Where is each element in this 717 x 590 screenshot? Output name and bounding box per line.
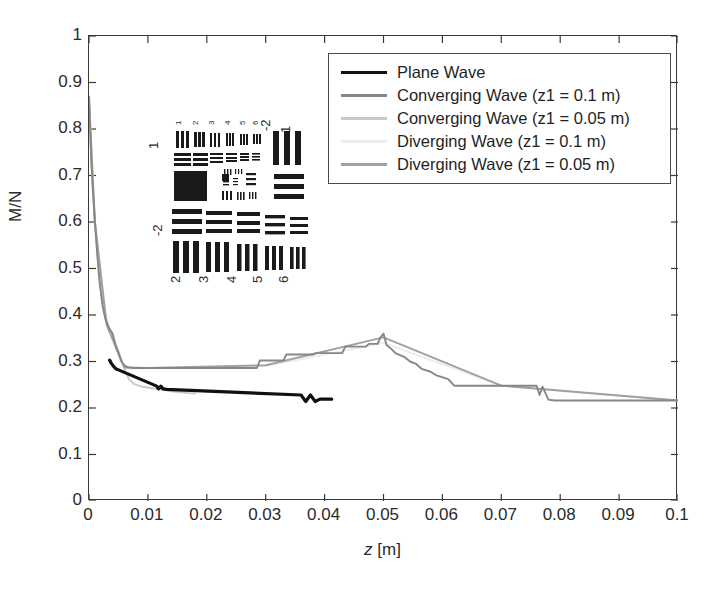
svg-text:1: 1 (174, 120, 183, 125)
legend-label: Diverging Wave (z1 = 0.1 m) (397, 132, 606, 151)
svg-text:2: 2 (191, 120, 200, 125)
legend-label: Converging Wave (z1 = 0.05 m) (397, 109, 630, 128)
x-axis-label: z [m] (88, 540, 677, 560)
svg-text:4: 4 (223, 120, 232, 125)
x-axis-label-variable: z (364, 540, 373, 559)
x-tick-label: 0.05 (366, 506, 399, 523)
svg-text:5: 5 (238, 120, 247, 125)
legend-label: Diverging Wave (z1 = 0.05 m) (397, 155, 615, 174)
y-tick-label: 0.4 (36, 305, 82, 322)
legend-color-swatch (341, 163, 387, 166)
svg-text:5: 5 (250, 276, 265, 283)
svg-text:-2: -2 (150, 224, 165, 236)
x-axis-ticks: 00.010.020.030.040.050.060.070.080.090.1 (88, 500, 677, 530)
x-tick-label: 0.06 (425, 506, 458, 523)
x-axis-label-unit: [m] (373, 540, 401, 559)
legend-label: Plane Wave (397, 63, 485, 82)
x-tick-label: 0.1 (665, 506, 689, 523)
legend: Plane WaveConverging Wave (z1 = 0.1 m)Co… (328, 53, 671, 184)
legend-color-swatch (341, 71, 387, 74)
legend-color-swatch (341, 94, 387, 97)
legend-label: Converging Wave (z1 = 0.1 m) (397, 86, 621, 105)
y-tick-label: 0.2 (36, 398, 82, 415)
y-axis-label: M/N (6, 191, 26, 222)
legend-color-swatch (341, 117, 387, 120)
svg-text:-2: -2 (258, 119, 273, 131)
svg-text:6: 6 (276, 276, 291, 283)
x-tick-label: 0 (83, 506, 92, 523)
legend-entry: Plane Wave (335, 61, 662, 84)
usaf-target-image: 1 2 3 4 5 6 1 -2 -2 1 2 (138, 101, 328, 291)
usaf-1951-resolution-target-inset: 1 2 3 4 5 6 1 -2 -2 1 2 (138, 101, 328, 291)
svg-text:1: 1 (146, 142, 161, 149)
chart-figure: M/N 10.90.80.70.60.50.40.30.20.10 1 2 3 … (0, 0, 717, 590)
legend-entry: Diverging Wave (z1 = 0.05 m) (335, 153, 662, 176)
y-tick-label: 0.8 (36, 119, 82, 136)
y-tick-label: 0.1 (36, 445, 82, 462)
y-tick-label: 0.5 (36, 259, 82, 276)
y-tick-label: 0.9 (36, 73, 82, 90)
y-tick-label: 1 (36, 26, 82, 43)
y-tick-label: 0.3 (36, 352, 82, 369)
plot-area: 1 2 3 4 5 6 1 -2 -2 1 2 (88, 35, 677, 500)
legend-entry: Diverging Wave (z1 = 0.1 m) (335, 130, 662, 153)
svg-text:3: 3 (196, 276, 211, 283)
svg-text:3: 3 (207, 120, 216, 125)
y-tick-label: 0.6 (36, 212, 82, 229)
svg-text:2: 2 (168, 276, 183, 283)
x-tick-label: 0.04 (307, 506, 340, 523)
x-tick-label: 0.02 (189, 506, 222, 523)
legend-entry: Converging Wave (z1 = 0.1 m) (335, 84, 662, 107)
svg-text:4: 4 (224, 276, 239, 283)
x-tick-label: 0.09 (602, 506, 635, 523)
x-tick-label: 0.03 (248, 506, 281, 523)
y-tick-label: 0 (36, 491, 82, 508)
x-tick-label: 0.07 (484, 506, 517, 523)
y-axis-ticks: 10.90.80.70.60.50.40.30.20.10 (30, 35, 82, 500)
y-tick-label: 0.7 (36, 166, 82, 183)
legend-color-swatch (341, 140, 387, 143)
x-tick-label: 0.01 (130, 506, 163, 523)
x-tick-label: 0.08 (543, 506, 576, 523)
legend-entry: Converging Wave (z1 = 0.05 m) (335, 107, 662, 130)
